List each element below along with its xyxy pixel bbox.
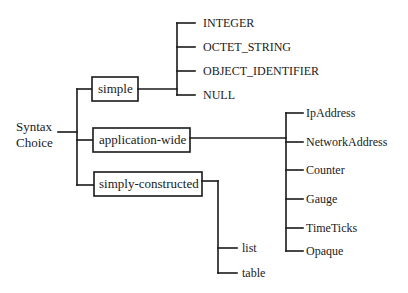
leaf-list: list [242, 241, 257, 255]
syntax-choice-tree-diagram: Syntax Choice simple INTEGER OCTET_STRIN… [0, 0, 408, 293]
leaf-timeticks: TimeTicks [306, 221, 357, 235]
leaf-ipaddress: IpAddress [306, 106, 356, 120]
leaf-opaque: Opaque [306, 244, 343, 258]
leaf-null: NULL [203, 88, 235, 102]
category-application-wide: application-wide [93, 128, 190, 152]
leaf-counter: Counter [306, 163, 345, 177]
leaf-table: table [242, 266, 265, 280]
leaf-networkaddress: NetworkAddress [306, 135, 388, 149]
category-label: simple [98, 81, 133, 96]
simply-constructed-children: list table [218, 241, 265, 280]
category-label: application-wide [99, 132, 187, 147]
root-label-line1: Syntax [16, 119, 53, 134]
category-simple: simple [92, 77, 138, 101]
application-wide-children: IpAddress NetworkAddress Counter Gauge T… [286, 106, 388, 258]
leaf-gauge: Gauge [306, 192, 337, 206]
simple-children: INTEGER OCTET_STRING OBJECT_IDENTIFIER N… [177, 16, 319, 102]
category-label: simply-constructed [99, 176, 199, 191]
root-node: Syntax Choice [16, 119, 53, 150]
leaf-integer: INTEGER [203, 16, 254, 30]
leaf-object-identifier: OBJECT_IDENTIFIER [203, 64, 319, 78]
root-label-line2: Choice [16, 135, 53, 150]
leaf-octet-string: OCTET_STRING [203, 40, 291, 54]
category-simply-constructed: simply-constructed [94, 172, 202, 196]
